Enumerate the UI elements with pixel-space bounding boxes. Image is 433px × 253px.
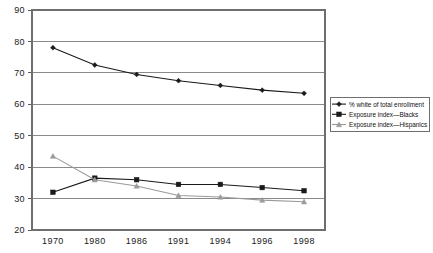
data-point-marker-diamond: [51, 45, 56, 50]
data-point-marker-diamond: [302, 91, 307, 96]
data-point-marker-square: [51, 190, 56, 195]
data-point-marker-diamond: [218, 83, 223, 88]
y-axis-tick-label: 50: [14, 131, 25, 141]
series-line: [53, 48, 304, 94]
legend-item-label: % white of total enrollment: [349, 101, 424, 108]
y-axis-tick-label: 70: [14, 68, 25, 78]
legend-item-label: Exposure index—Hispanics: [349, 121, 427, 129]
data-point-marker-square: [302, 188, 307, 193]
legend: % white of total enrollmentExposure inde…: [330, 97, 429, 132]
gridlines-group: [32, 10, 325, 199]
series-2: [51, 176, 307, 195]
data-point-marker-diamond: [260, 88, 265, 93]
x-axis-tick-label: 1998: [293, 236, 315, 246]
y-axis-tick-label: 60: [14, 99, 25, 109]
legend-item-label: Exposure index—Blacks: [349, 111, 418, 119]
data-point-marker-square: [176, 182, 181, 187]
y-axis-tick-label: 30: [14, 194, 25, 204]
data-point-marker-square: [260, 185, 265, 190]
line-chart: 2030405060708090 19701980198619911994199…: [0, 0, 433, 253]
y-axis-tick-label: 20: [14, 225, 25, 235]
x-axis-tick-label: 1980: [84, 236, 106, 246]
data-point-marker-square: [218, 182, 223, 187]
x-axis-tick-label: 1991: [168, 236, 190, 246]
y-axis-tick-label: 80: [14, 37, 25, 47]
x-axis-tick-label: 1970: [42, 236, 64, 246]
y-axis-tick-label: 40: [14, 162, 25, 172]
x-axis-labels: 1970198019861991199419961998: [42, 236, 315, 246]
series-group: [50, 45, 306, 204]
data-point-marker-diamond: [176, 78, 181, 83]
data-point-marker-square: [337, 112, 342, 117]
y-axis-tick-label: 90: [14, 5, 25, 15]
data-point-marker-square: [134, 177, 139, 182]
data-point-marker-triangle: [50, 154, 55, 159]
series-3: [50, 154, 306, 204]
y-axis-labels: 2030405060708090: [14, 5, 25, 235]
x-axis-tick-label: 1986: [126, 236, 148, 246]
x-axis-tick-label: 1996: [251, 236, 273, 246]
x-axis-tick-label: 1994: [210, 236, 232, 246]
chart-canvas: 2030405060708090 19701980198619911994199…: [0, 0, 433, 253]
series-1: [51, 45, 307, 95]
data-point-marker-diamond: [92, 63, 97, 68]
